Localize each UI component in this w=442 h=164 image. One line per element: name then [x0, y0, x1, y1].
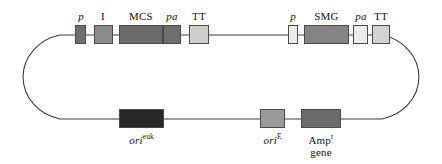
- feature-box-transcription-terminator-1: [189, 25, 209, 44]
- label-amp-main: Amp: [308, 134, 331, 146]
- feature-box-ori-e: [260, 109, 285, 128]
- feature-box-amp-resistance-gene: [301, 109, 341, 128]
- feature-box-polyadenylation-1: [163, 25, 181, 44]
- feature-box-polyadenylation-2: [353, 25, 368, 44]
- label-ori-e-main: ori: [263, 134, 276, 146]
- label-ori-e: oriE: [250, 131, 295, 146]
- label-transcription-terminator-2: TT: [365, 10, 397, 22]
- label-intron: I: [86, 10, 120, 22]
- label-amp-superscript: r: [331, 132, 334, 141]
- feature-box-transcription-terminator-2: [372, 25, 390, 44]
- feature-box-ori-euk: [119, 109, 164, 128]
- feature-box-selectable-marker-gene: [304, 25, 349, 44]
- label-ori-euk: orieuk: [109, 131, 174, 146]
- feature-box-multiple-cloning-site: [119, 25, 163, 44]
- label-ori-euk-superscript: euk: [143, 132, 154, 141]
- label-selectable-marker-gene: SMG: [304, 10, 349, 22]
- backbone-path: [23, 35, 419, 119]
- label-ori-euk-main: ori: [129, 134, 142, 146]
- label-transcription-terminator-1: TT: [182, 10, 216, 22]
- plasmid-diagram: p I MCS pa TT p SMG pa TT orieuk oriE Am…: [0, 0, 442, 164]
- feature-box-promoter-2: [288, 25, 298, 44]
- feature-box-intron: [94, 25, 113, 44]
- label-amp-line2: gene: [291, 146, 351, 158]
- label-ori-e-superscript: E: [277, 132, 282, 141]
- feature-box-promoter-1: [75, 25, 86, 44]
- label-amp-resistance-gene: Amprgene: [291, 131, 351, 158]
